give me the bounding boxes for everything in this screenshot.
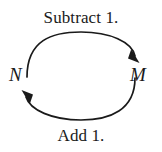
edge-label-subtract: Subtract 1.: [0, 9, 162, 26]
node-label-n: N: [9, 65, 22, 84]
top-arc-path: [27, 32, 135, 77]
edge-label-add: Add 1.: [0, 127, 162, 144]
node-label-m: M: [130, 65, 146, 84]
bottom-arrowhead-icon: [22, 90, 34, 104]
cycle-diagram: Subtract 1. Add 1. N M: [0, 0, 162, 152]
bottom-arc-path: [26, 78, 135, 120]
